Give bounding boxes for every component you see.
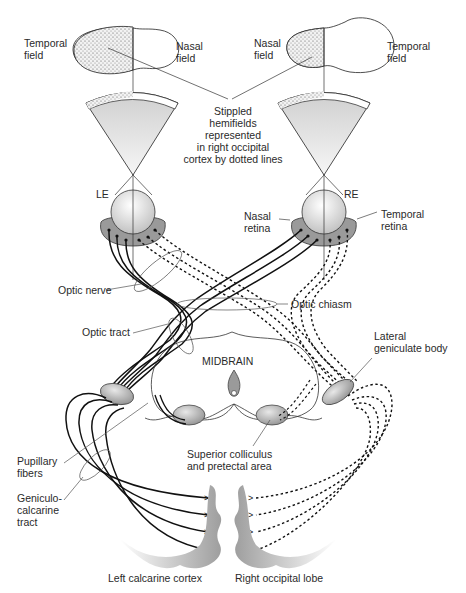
optic-chiasm-label: Optic chiasm [291, 298, 352, 310]
right-nasal-field-label: Nasal field [254, 37, 281, 61]
svg-text:>: > [248, 493, 253, 503]
svg-text:>: > [248, 510, 253, 520]
optic-nerve-label: Optic nerve [58, 284, 112, 296]
right-occipital-lobe-label: Right occipital lobe [235, 572, 323, 584]
leader-line [108, 48, 228, 99]
visual-pathway-diagram: > > > > > > > > Temporal field Nasal fie… [0, 0, 466, 593]
dotted-fibers [139, 230, 358, 392]
pupillary-fibers-label: Pupillary fibers [17, 455, 57, 479]
midbrain-label: MIDBRAIN [202, 355, 253, 367]
right-visual-field [287, 18, 394, 73]
right-temporal-field-label: Temporal field [387, 40, 430, 64]
temporal-retina-label: Temporal retina [381, 208, 424, 232]
optic-chiasm-marker [177, 298, 277, 310]
optic-tract-label: Optic tract [82, 326, 130, 338]
left-visual-field [73, 26, 179, 73]
leader-line [232, 57, 312, 99]
diagram-canvas: > > > > > > > > [0, 0, 466, 593]
right-superior-colliculus [256, 405, 288, 425]
left-view-cone [86, 91, 178, 175]
optic-nerve-marker [129, 245, 187, 297]
stippled-hemifields-note: Stippled hemifields represented in right… [168, 105, 298, 165]
superior-colliculus-label: Superior colliculus and pretectal area [187, 448, 272, 472]
solid-fibers [109, 230, 317, 392]
left-calcarine-cortex-label: Left calcarine cortex [108, 572, 202, 584]
left-eye-label: LE [96, 188, 109, 200]
left-eye [101, 190, 166, 246]
geniculocalcarine-tract-label: Geniculo- calcarine tract [17, 492, 62, 528]
lateral-geniculate-body-label: Lateral geniculate body [374, 330, 448, 354]
nasal-retina-label: Nasal retina [244, 210, 271, 234]
left-temporal-field-label: Temporal field [24, 37, 67, 61]
left-nasal-field-label: Nasal field [176, 40, 203, 64]
right-eye-label: RE [344, 188, 359, 200]
